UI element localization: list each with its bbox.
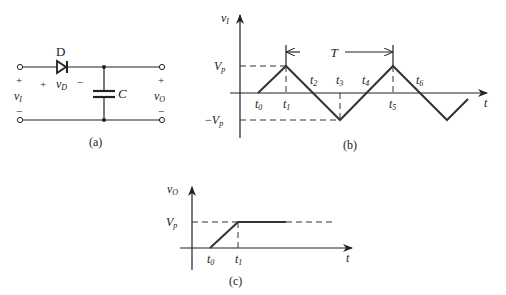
t0-label-b: t0 <box>255 97 262 112</box>
t3-label-b: t3 <box>336 73 343 88</box>
caption-c: (c) <box>229 274 242 288</box>
caption-b: (b) <box>343 138 357 152</box>
neg-vp-label-b: −Vp <box>205 113 223 128</box>
input-plus-sign: + <box>16 74 22 86</box>
output-waveform <box>210 222 286 248</box>
output-voltage-label: vO <box>154 89 165 104</box>
x-axis-label-c: t <box>346 251 350 265</box>
diode-plus-sign: + <box>40 78 46 90</box>
caption-a: (a) <box>89 135 102 149</box>
vp-label-b: Vp <box>214 59 225 74</box>
t5-label-b: t5 <box>389 97 396 112</box>
output-terminal-bottom <box>159 117 164 122</box>
t0-label-c: t0 <box>207 252 214 267</box>
t1-label-c: t1 <box>235 252 242 267</box>
capacitor-icon <box>93 91 115 97</box>
t1-label-b: t1 <box>283 97 290 112</box>
t4-label-b: t4 <box>362 73 369 88</box>
input-voltage-label: vI <box>14 89 22 104</box>
circuit-a: D C + vI − + vD − + vO − (a) <box>14 44 165 149</box>
output-terminal-top <box>159 64 164 69</box>
output-minus-sign: − <box>158 105 164 117</box>
graph-c: vO t Vp t0 t1 (c) <box>166 182 352 288</box>
diode-icon <box>57 61 67 73</box>
input-terminal-bottom <box>17 117 22 122</box>
period-label: T <box>330 45 338 60</box>
output-plus-sign: + <box>158 74 164 86</box>
t2-label-b: t2 <box>310 73 317 88</box>
diode-label: D <box>56 44 65 59</box>
diode-minus-sign: − <box>77 76 83 88</box>
capacitor-label: C <box>118 86 127 101</box>
vp-label-c: Vp <box>166 215 177 230</box>
x-axis-label-b: t <box>484 96 488 110</box>
t6-label-b: t6 <box>416 73 423 88</box>
graph-b: vI t T Vp −Vp t0 t1 t2 t3 t4 t5 t6 (b) <box>205 11 488 152</box>
y-axis-label-b: vI <box>221 11 229 26</box>
diode-voltage-label: vD <box>56 77 67 92</box>
input-terminal-top <box>17 64 22 69</box>
input-minus-sign: − <box>16 105 22 117</box>
y-axis-label-c: vO <box>167 182 178 197</box>
